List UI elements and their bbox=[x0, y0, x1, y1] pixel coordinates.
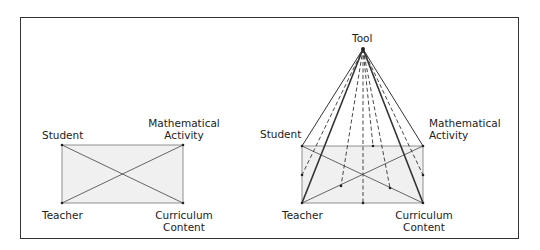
right-label-curriculum-line2: Content bbox=[390, 221, 458, 233]
right-label-teacher: Teacher bbox=[282, 209, 323, 221]
left-label-curriculum-line1: Curriculum bbox=[150, 209, 218, 221]
left-label-math-activity-line1: Mathematical bbox=[146, 117, 222, 129]
left-tetrahedron-base bbox=[61, 144, 185, 205]
left-label-student: Student bbox=[42, 129, 83, 141]
left-label-teacher: Teacher bbox=[42, 209, 83, 221]
left-label-math-activity-line2: Activity bbox=[146, 129, 222, 141]
right-label-student: Student bbox=[260, 128, 301, 140]
right-label-curriculum-line1: Curriculum bbox=[390, 209, 458, 221]
left-label-curriculum-line2: Content bbox=[150, 221, 218, 233]
right-label-math-activity-line1: Mathematical bbox=[429, 117, 501, 129]
right-label-math-activity-line2: Activity bbox=[429, 129, 501, 141]
left-label-curriculum-content: Curriculum Content bbox=[150, 209, 218, 233]
right-pyramid bbox=[301, 47, 425, 204]
left-label-math-activity: Mathematical Activity bbox=[146, 117, 222, 141]
right-label-math-activity: Mathematical Activity bbox=[429, 117, 501, 141]
right-label-tool: Tool bbox=[352, 32, 372, 44]
right-label-curriculum-content: Curriculum Content bbox=[390, 209, 458, 233]
